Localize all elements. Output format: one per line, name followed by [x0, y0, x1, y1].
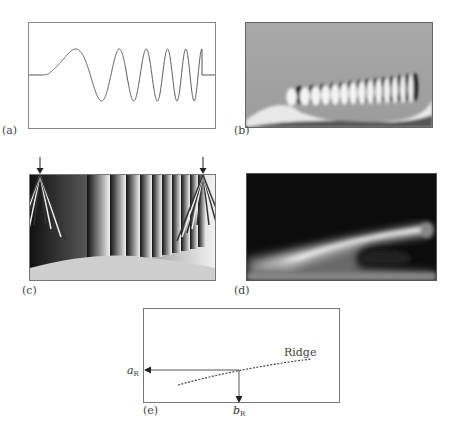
panel-b: (b): [0, 0, 453, 140]
arrow-down-icon-left: [37, 157, 44, 174]
arrow-down-icon: [236, 370, 243, 403]
panel-d: (d): [230, 140, 453, 300]
b-r-label: bR: [233, 404, 246, 418]
ridge-curve: [178, 359, 311, 385]
wavelet-phase-image: [0, 140, 230, 300]
ridge-label: Ridge: [284, 346, 316, 359]
a-r-label: aR: [127, 364, 140, 378]
arrow-left-icon: [144, 367, 239, 374]
panel-c-label: (c): [22, 284, 37, 297]
panel-d-label: (d): [234, 284, 250, 297]
ridge-schematic: Ridge aR bR: [0, 300, 453, 445]
panel-e-label: (e): [143, 404, 158, 417]
arrow-down-icon-right: [200, 157, 207, 174]
panel-c: (c): [0, 140, 230, 300]
panel-b-label: (b): [234, 124, 250, 137]
panel-e: Ridge aR bR (e): [0, 300, 453, 445]
wavelet-real-part-image: [0, 0, 453, 140]
wavelet-modulus-image: [230, 140, 453, 300]
